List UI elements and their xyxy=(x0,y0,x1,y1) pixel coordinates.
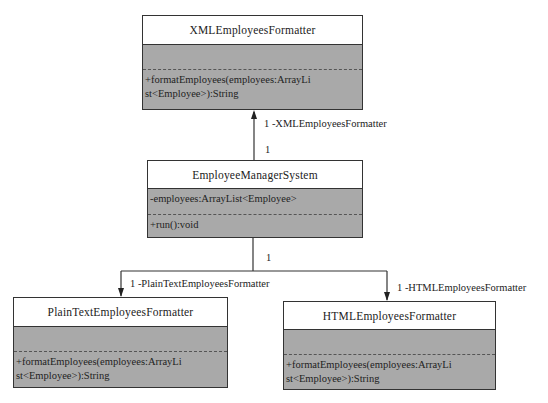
class-operations: +formatEmployees(employees:ArrayLi st<Em… xyxy=(143,70,362,101)
class-attributes xyxy=(143,45,362,70)
attribute-line: -employees:ArrayList<Employee> xyxy=(150,193,362,204)
xml-role-label: 1 -XMLEmployeesFormatter xyxy=(264,118,387,129)
arrowhead-icon xyxy=(251,110,257,119)
down-source-multiplicity: 1 xyxy=(266,252,271,263)
operation-line: st<Employee>):String xyxy=(286,372,495,386)
class-name: HTMLEmployeesFormatter xyxy=(284,302,495,330)
class-name: XMLEmployeesFormatter xyxy=(143,16,362,45)
operation-line: st<Employee>):String xyxy=(145,87,362,101)
operation-line: +formatEmployees(employees:ArrayLi xyxy=(145,73,362,87)
class-html-employees-formatter[interactable]: HTMLEmployeesFormatter +formatEmployees(… xyxy=(283,301,496,390)
class-plaintext-employees-formatter[interactable]: PlainTextEmployeesFormatter +formatEmplo… xyxy=(13,297,228,388)
plaintext-role-label: 1 -PlainTextEmployeesFormatter xyxy=(130,278,270,289)
class-attributes: -employees:ArrayList<Employee> xyxy=(148,189,362,215)
class-name: EmployeeManagerSystem xyxy=(148,161,362,189)
class-name: PlainTextEmployeesFormatter xyxy=(14,298,227,327)
class-employee-manager-system[interactable]: EmployeeManagerSystem -employees:ArrayLi… xyxy=(147,160,363,238)
operation-line: +formatEmployees(employees:ArrayLi xyxy=(16,355,227,369)
operation-line: st<Employee>):String xyxy=(16,369,227,383)
class-operations: +run():void xyxy=(148,215,362,232)
html-role-label: 1 -HTMLEmployeesFormatter xyxy=(397,282,526,293)
class-attributes xyxy=(284,330,495,355)
operation-line: +formatEmployees(employees:ArrayLi xyxy=(286,358,495,372)
operation-line: +run():void xyxy=(150,218,362,232)
class-attributes xyxy=(14,327,227,352)
xml-source-multiplicity: 1 xyxy=(265,144,270,155)
class-xml-employees-formatter[interactable]: XMLEmployeesFormatter +formatEmployees(e… xyxy=(142,15,363,110)
class-operations: +formatEmployees(employees:ArrayLi st<Em… xyxy=(14,352,227,383)
class-operations: +formatEmployees(employees:ArrayLi st<Em… xyxy=(284,355,495,386)
